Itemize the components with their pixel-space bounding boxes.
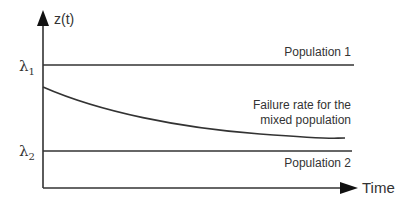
y-axis-label: z(t) <box>54 11 74 27</box>
mixed-population-label-line2: mixed population <box>260 113 351 127</box>
mixed-population-label-line1: Failure rate for the <box>253 98 351 112</box>
population2-label: Population 2 <box>284 156 351 170</box>
failure-rate-diagram: z(t) Time λ1 λ2 Population 1 Failure rat… <box>0 0 414 205</box>
lambda1-label: λ1 <box>19 57 35 77</box>
x-axis-label: Time <box>362 179 395 196</box>
lambda2-label: λ2 <box>19 142 35 162</box>
x-axis-arrowhead-icon <box>340 182 358 194</box>
population1-label: Population 1 <box>284 45 351 59</box>
y-axis-arrowhead-icon <box>37 10 49 26</box>
